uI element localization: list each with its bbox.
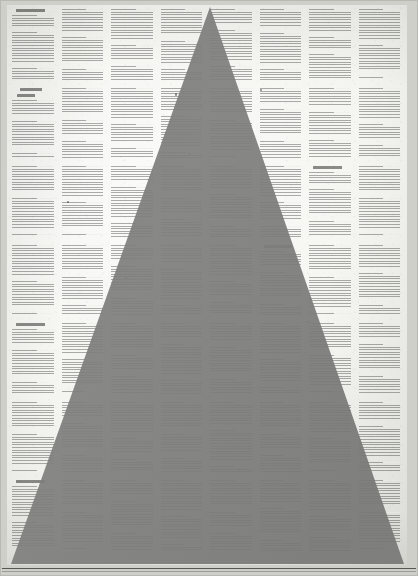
paragraph — [62, 402, 104, 417]
text-block — [259, 87, 303, 159]
paragraph — [260, 202, 302, 220]
paragraph — [210, 66, 252, 80]
paragraph — [161, 116, 203, 146]
text-block — [358, 87, 402, 159]
paragraph — [12, 402, 54, 428]
text-block — [11, 165, 55, 237]
paragraph — [161, 166, 203, 192]
paragraph — [161, 305, 203, 316]
paragraph — [62, 512, 104, 542]
text-block — [11, 322, 55, 394]
bottom-rule-secondary — [2, 571, 416, 572]
paragraph — [210, 323, 252, 341]
text-block — [259, 322, 303, 394]
text-block — [209, 244, 253, 316]
paragraph — [260, 480, 302, 502]
paragraph — [359, 198, 401, 228]
paragraph — [260, 455, 302, 473]
text-block — [110, 322, 154, 394]
paragraph — [309, 37, 351, 48]
paragraph — [309, 9, 351, 31]
paragraph — [309, 112, 351, 134]
paragraph — [210, 512, 252, 527]
paragraph — [359, 512, 401, 542]
paragraph — [260, 88, 302, 103]
paragraph — [111, 166, 153, 181]
paragraph — [12, 313, 54, 316]
paragraph — [111, 376, 153, 394]
paragraph — [62, 234, 104, 237]
paragraph — [12, 350, 54, 376]
paragraph — [210, 9, 252, 24]
text-block — [209, 401, 253, 473]
text-block — [110, 8, 154, 80]
paragraph — [260, 141, 302, 159]
text-block — [11, 87, 55, 159]
paragraph — [12, 382, 54, 394]
text-block — [209, 87, 253, 159]
paragraph — [111, 533, 153, 551]
paragraph — [111, 148, 153, 159]
paragraph — [309, 189, 351, 215]
paragraph — [359, 344, 401, 370]
paragraph — [359, 480, 401, 506]
paragraph — [210, 379, 252, 394]
text-block — [61, 8, 105, 80]
paragraph — [62, 120, 104, 135]
paragraph — [309, 355, 351, 385]
paragraph — [111, 9, 153, 39]
paragraph — [62, 323, 104, 353]
paragraph — [309, 54, 351, 80]
paragraph — [62, 88, 104, 114]
paragraph — [210, 88, 252, 114]
paragraph — [359, 462, 401, 473]
text-block — [160, 322, 204, 394]
text-block — [358, 401, 402, 473]
text-block — [110, 165, 154, 237]
paragraph — [12, 486, 54, 516]
paragraph — [260, 226, 302, 237]
paragraph — [161, 9, 203, 35]
paragraph — [309, 391, 351, 394]
paragraph — [260, 33, 302, 63]
text-block — [358, 322, 402, 394]
paragraph — [111, 45, 153, 60]
paragraph — [62, 455, 104, 473]
paragraph — [161, 245, 203, 263]
text-block — [308, 244, 352, 316]
text-block — [308, 165, 352, 237]
heading-rule — [17, 94, 38, 97]
paragraph — [260, 434, 302, 449]
text-block — [110, 244, 154, 316]
paragraph — [359, 245, 401, 267]
text-block — [259, 244, 303, 316]
paragraph — [309, 537, 351, 551]
text-block — [259, 8, 303, 80]
paragraph — [309, 323, 351, 349]
paragraph — [12, 32, 54, 62]
paragraph — [161, 458, 203, 473]
paragraph — [359, 305, 401, 316]
text-block — [61, 401, 105, 473]
paragraph — [111, 266, 153, 292]
paragraph — [12, 329, 54, 344]
paragraph — [309, 221, 351, 237]
text-block — [160, 8, 204, 80]
text-block — [11, 401, 55, 473]
text-block — [308, 87, 352, 159]
paragraph — [210, 30, 252, 60]
paragraph — [260, 402, 302, 428]
paragraph — [62, 9, 104, 31]
paragraph — [161, 323, 203, 338]
paragraph — [359, 45, 401, 71]
paragraph — [62, 245, 104, 271]
paragraph — [210, 245, 252, 275]
heading-rule — [16, 480, 50, 483]
paragraph — [12, 68, 54, 80]
paragraph — [111, 438, 153, 453]
paragraph — [111, 323, 153, 349]
paragraph — [161, 402, 203, 428]
paragraph — [62, 359, 104, 385]
paragraph — [210, 466, 252, 473]
paragraph — [161, 198, 203, 213]
